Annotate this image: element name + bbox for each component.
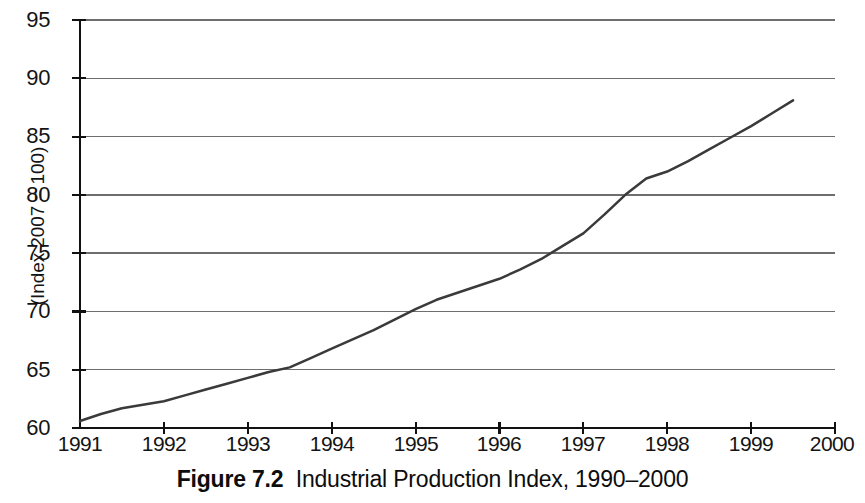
line-chart-svg bbox=[0, 0, 865, 455]
figure-caption-label: Figure 7.2 bbox=[177, 466, 284, 492]
x-tick-label-1996: 1996 bbox=[459, 432, 539, 456]
x-tick-label-2000: 2000 bbox=[792, 432, 865, 456]
y-tick-label-90: 90 bbox=[4, 65, 50, 91]
y-tick-label-80: 80 bbox=[4, 182, 50, 208]
y-tick-label-75: 75 bbox=[4, 240, 50, 266]
data-series-line bbox=[80, 100, 793, 421]
x-tick-label-1993: 1993 bbox=[208, 432, 288, 456]
y-tick-label-85: 85 bbox=[4, 123, 50, 149]
figure-container: (Index 2007 = 100) 95 90 85 80 75 70 65 … bbox=[0, 0, 865, 503]
y-tick-label-70: 70 bbox=[4, 298, 50, 324]
x-tick-label-1997: 1997 bbox=[543, 432, 623, 456]
figure-caption-text: Industrial Production Index, 1990–2000 bbox=[296, 466, 689, 492]
y-tick-label-65: 65 bbox=[4, 357, 50, 383]
x-tick-label-1999: 1999 bbox=[711, 432, 791, 456]
gridlines-group bbox=[80, 20, 835, 370]
x-tick-label-1994: 1994 bbox=[292, 432, 372, 456]
x-tick-label-1992: 1992 bbox=[124, 432, 204, 456]
chart-plot-area: (Index 2007 = 100) 95 90 85 80 75 70 65 … bbox=[0, 0, 865, 455]
x-tick-label-1995: 1995 bbox=[376, 432, 456, 456]
x-tick-label-1991: 1991 bbox=[40, 432, 120, 456]
x-tick-label-1998: 1998 bbox=[627, 432, 707, 456]
figure-caption: Figure 7.2 Industrial Production Index, … bbox=[0, 466, 865, 493]
y-tick-label-95: 95 bbox=[4, 7, 50, 33]
